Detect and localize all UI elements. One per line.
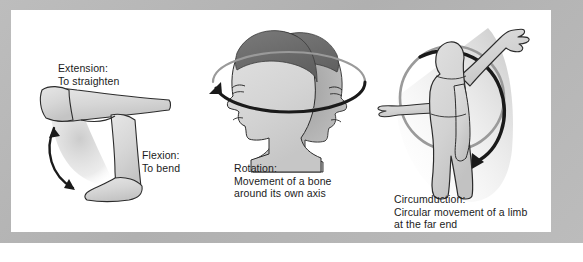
circumduction-panel: Circumduction: Circular movement of a li… [376, 10, 551, 232]
anatomy-joint-movement-figure: Extension: To straighten Flexion: To ben… [0, 0, 583, 262]
extension-label: Extension: To straighten [58, 62, 119, 87]
rotation-label: Rotation: Movement of a bone around its … [234, 162, 332, 200]
rotation-panel: Rotation: Movement of a bone around its … [201, 10, 376, 232]
leg-shadow [51, 114, 115, 185]
figure-inner-panel: Extension: To straighten Flexion: To ben… [11, 10, 551, 232]
circumduction-label: Circumduction: Circular movement of a li… [394, 193, 527, 231]
extension-and-flexion-panel: Extension: To straighten Flexion: To ben… [11, 10, 201, 232]
bent-leg-illustration [11, 10, 201, 232]
flexion-label: Flexion: To bend [142, 149, 180, 174]
hip-shape [40, 87, 73, 122]
figure-frame: Extension: To straighten Flexion: To ben… [0, 0, 583, 243]
